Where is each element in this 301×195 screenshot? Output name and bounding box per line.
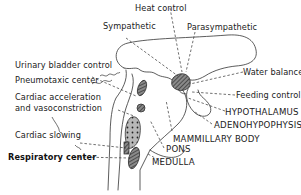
cerebrum-outline	[116, 35, 256, 80]
label-feeding-control: Feeding control	[236, 91, 301, 99]
label-mammillary-body: MAMMILLARY BODY	[173, 135, 260, 144]
label-parasympathetic: Parasympathetic	[187, 23, 257, 31]
hypothalamus-nuclei	[172, 74, 191, 91]
cardiac-accel-nucleus	[137, 104, 145, 112]
label-heat-control: Heat control	[135, 4, 187, 12]
pneumotaxic-nucleus	[136, 79, 149, 97]
label-water-balance: Water balance	[243, 68, 301, 76]
label-hypothalamus: HYPOTHALAMUS	[225, 108, 299, 117]
label-urinary-bladder-control: Urinary bladder control	[15, 61, 112, 69]
label-cardiac-slowing: Cardiac slowing	[15, 131, 81, 139]
label-cardiac-acceleration-line1: Cardiac acceleration	[15, 93, 101, 101]
label-pons: PONS	[166, 145, 191, 154]
label-medulla: MEDULLA	[152, 158, 195, 167]
brain-diagram: Heat control Sympathetic Parasympathetic…	[0, 0, 301, 195]
label-respiratory-center: Respiratory center	[8, 153, 96, 161]
label-pneumotaxic-center: Pneumotaxic center	[15, 76, 99, 84]
label-cardiac-acceleration-line2: and vasoconstriction	[15, 104, 102, 112]
label-sympathetic: Sympathetic	[103, 22, 156, 30]
label-adenohypophysis: ADENOHYPOPHYSIS	[214, 121, 301, 130]
